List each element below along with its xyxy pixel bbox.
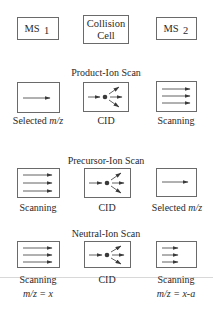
ms2-label: MS: [163, 23, 178, 34]
ion-collision-dot-icon: [105, 253, 110, 258]
precursor-ion-cid: [85, 169, 131, 198]
precursor-ion-left-label: Scanning: [19, 202, 56, 213]
precursor-ion-ms1-scanning: [18, 169, 60, 198]
collision-cell-label-line2: Cell: [97, 30, 115, 41]
ms-ms-scan-modes-diagram: MS 1 Collision Cell MS 2 Product-Ion Sca…: [0, 0, 213, 313]
product-ion-ms2-scanning: [157, 82, 197, 112]
ion-collision-dot-icon: [105, 181, 110, 186]
ms1-component: MS 1: [18, 18, 59, 40]
scan-title-precursor-ion: Precursor-Ion Scan: [68, 155, 145, 166]
collision-cell-label-line1: Collision: [87, 18, 126, 29]
product-ion-cid: [84, 83, 129, 112]
product-ion-ms1-selected: [18, 83, 60, 113]
neutral-ion-ms1-scanning: [18, 242, 60, 268]
neutral-ion-left-sublabel: m/z = x: [23, 288, 54, 299]
ms1-subscript: 1: [44, 25, 49, 36]
precursor-ion-center-label: CID: [98, 202, 115, 213]
neutral-ion-ms2-scanning-offset: [157, 242, 197, 268]
neutral-ion-left-label: Scanning: [19, 274, 56, 285]
collision-cell-component: Collision Cell: [84, 16, 129, 44]
ms1-label: MS: [24, 23, 39, 34]
scan-title-neutral-ion: Neutral-Ion Scan: [72, 228, 141, 239]
scan-title-product-ion: Product-Ion Scan: [71, 67, 141, 78]
ion-collision-dot-icon: [103, 95, 108, 100]
neutral-ion-center-label: CID: [98, 274, 115, 285]
product-ion-left-label: Selected m/z: [13, 115, 63, 126]
precursor-ion-ms2-selected: [157, 169, 197, 197]
ms2-component: MS 2: [157, 18, 197, 40]
product-ion-center-label: CID: [97, 115, 114, 126]
precursor-ion-right-label: Selected m/z: [152, 202, 202, 213]
ms2-subscript: 2: [183, 25, 188, 36]
neutral-ion-right-sublabel: m/z = x-a: [157, 288, 195, 299]
neutral-ion-cid: [85, 242, 131, 268]
neutral-ion-right-label: Scanning: [157, 274, 194, 285]
product-ion-right-label: Scanning: [157, 115, 194, 126]
